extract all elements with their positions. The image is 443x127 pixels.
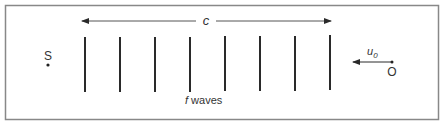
observer-velocity-label: u0 [367,45,378,60]
waves-label: f waves [185,94,223,106]
source-label: S [44,49,52,63]
observer-label: O [387,65,396,79]
wavefronts [85,35,330,92]
speed-label: c [203,13,210,28]
observer-point [391,61,394,64]
doppler-diagram: c S f waves u0 O [0,0,443,127]
source-point [46,63,49,66]
